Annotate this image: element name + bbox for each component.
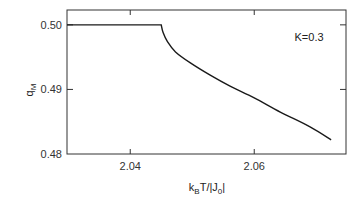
- annotation-k-value: K=0.3: [295, 31, 324, 43]
- y-tick-label: 0.50: [41, 19, 62, 31]
- x-ticks: 2.042.06: [120, 10, 265, 172]
- chart: 2.042.06 0.480.490.50 K=0.3 qM kBT/|J0|: [0, 0, 362, 213]
- y-axis-label: qM: [23, 83, 38, 96]
- series-line-qM: [67, 25, 331, 140]
- x-tick-label: 2.04: [120, 160, 141, 172]
- y-tick-label: 0.49: [41, 83, 62, 95]
- x-axis-label: kBT/|J0|: [189, 181, 225, 196]
- y-tick-label: 0.48: [41, 148, 62, 160]
- x-tick-label: 2.06: [244, 160, 265, 172]
